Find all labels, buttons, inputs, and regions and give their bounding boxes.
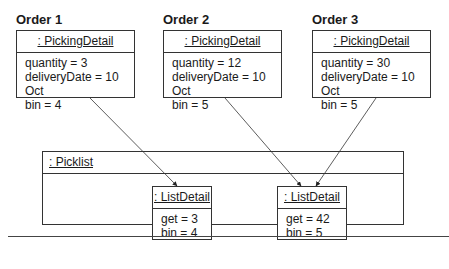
link-arrows bbox=[0, 0, 449, 269]
bottom-divider bbox=[8, 236, 449, 237]
link-order1-listdetail1 bbox=[90, 98, 177, 186]
link-order2-listdetail2 bbox=[225, 98, 301, 186]
link-order3-listdetail2 bbox=[316, 98, 376, 186]
